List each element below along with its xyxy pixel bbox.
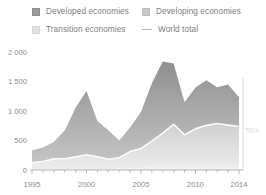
legend-label-transition: Transition economies [46, 25, 126, 34]
y-axis-tick-2: 1 000 [8, 107, 27, 116]
right-percentage-annotation: 55% [245, 127, 259, 134]
chart-plot-area: 05001 0001 5002 000 19952000200520102014… [0, 44, 266, 195]
chart-legend: Developed economies Developing economies… [0, 0, 266, 44]
x-axis-tick-2005: 2005 [132, 180, 149, 189]
legend-item-world-total[interactable]: World total [142, 25, 198, 34]
x-axis-tick-2000: 2000 [78, 180, 95, 189]
x-axis-tick-2014: 2014 [231, 180, 248, 189]
y-axis-tick-3: 1 500 [8, 77, 27, 86]
legend-swatch-transition-icon [32, 26, 40, 34]
legend-line-world-total-icon [142, 26, 152, 34]
x-axis-tick-2010: 2010 [187, 180, 204, 189]
x-axis-tick-1995: 1995 [24, 180, 41, 189]
y-axis-tick-0: 0 [23, 166, 27, 175]
y-axis-tick-1: 500 [14, 136, 27, 145]
legend-label-developing: Developing economies [156, 7, 241, 16]
stacked-area-series [32, 61, 239, 170]
legend-item-transition-economies[interactable]: Transition economies [32, 25, 126, 34]
legend-item-developed-economies[interactable]: Developed economies [32, 7, 129, 16]
legend-item-developing-economies[interactable]: Developing economies [142, 7, 241, 16]
x-axis-tick-marks [32, 170, 239, 174]
x-axis-tick-labels: 19952000200520102014 [24, 180, 248, 189]
fdi-stacked-area-chart: Developed economies Developing economies… [0, 0, 266, 195]
legend-label-world-total: World total [158, 25, 198, 34]
y-axis-tick-4: 2 000 [8, 48, 27, 57]
y-axis-tick-labels: 05001 0001 5002 000 [8, 48, 27, 175]
legend-swatch-developing-icon [142, 8, 150, 16]
legend-swatch-developed-icon [32, 8, 40, 16]
legend-label-developed: Developed economies [46, 7, 129, 16]
chart-svg: 05001 0001 5002 000 19952000200520102014… [0, 44, 266, 195]
